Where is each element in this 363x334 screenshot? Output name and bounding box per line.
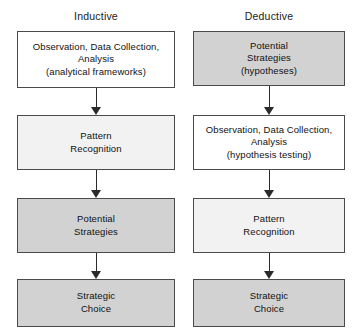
node-label: Pattern Recognition — [239, 213, 298, 238]
arrow-head — [91, 271, 101, 279]
node-inductive-observation[interactable]: Observation, Data Collection, Analysis (… — [17, 31, 175, 88]
column-heading-deductive: Deductive — [193, 10, 345, 22]
node-label: Potential Strategies (hypotheses) — [237, 40, 301, 78]
node-label: Observation, Data Collection, Analysis (… — [202, 124, 336, 162]
node-label: Strategic Choice — [73, 290, 119, 315]
arrow-inductive-3 — [91, 253, 102, 279]
process-flow-diagram: Inductive Deductive Observation, Data Co… — [0, 0, 363, 334]
arrow-head — [264, 190, 274, 198]
arrow-shaft — [269, 86, 270, 107]
node-inductive-pattern-recognition[interactable]: Pattern Recognition — [17, 115, 175, 170]
arrow-shaft — [96, 88, 97, 107]
node-label: Observation, Data Collection, Analysis (… — [29, 41, 163, 79]
arrow-inductive-2 — [91, 170, 102, 198]
node-deductive-potential-strategies[interactable]: Potential Strategies (hypotheses) — [193, 31, 345, 86]
node-deductive-strategic-choice[interactable]: Strategic Choice — [193, 279, 345, 327]
arrow-shaft — [96, 253, 97, 271]
arrow-head — [91, 107, 101, 115]
arrow-shaft — [96, 170, 97, 190]
arrow-head — [91, 190, 101, 198]
node-inductive-potential-strategies[interactable]: Potential Strategies — [17, 198, 175, 253]
node-deductive-observation[interactable]: Observation, Data Collection, Analysis (… — [193, 115, 345, 170]
arrow-deductive-1 — [264, 86, 275, 115]
arrow-shaft — [269, 170, 270, 190]
node-label: Pattern Recognition — [66, 130, 125, 155]
arrow-deductive-2 — [264, 170, 275, 198]
arrow-inductive-1 — [91, 88, 102, 115]
node-inductive-strategic-choice[interactable]: Strategic Choice — [17, 279, 175, 327]
arrow-head — [264, 107, 274, 115]
node-deductive-pattern-recognition[interactable]: Pattern Recognition — [193, 198, 345, 253]
node-label: Potential Strategies — [70, 213, 122, 238]
arrow-head — [264, 271, 274, 279]
arrow-deductive-3 — [264, 253, 275, 279]
arrow-shaft — [269, 253, 270, 271]
node-label: Strategic Choice — [246, 290, 292, 315]
column-heading-inductive: Inductive — [17, 10, 175, 22]
